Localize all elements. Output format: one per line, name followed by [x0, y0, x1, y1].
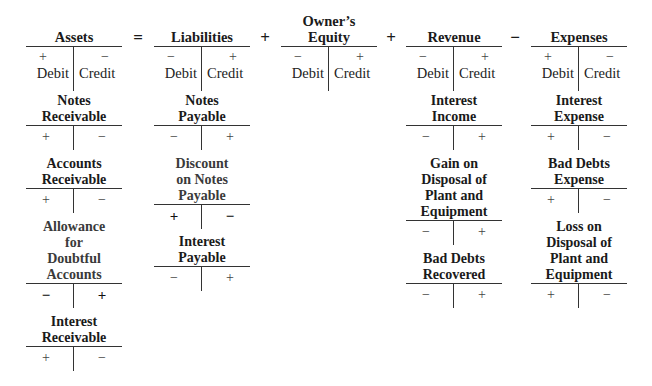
t-account-allowance-doubtful-accounts: Allowance for Doubtful Accounts − +: [26, 219, 122, 308]
credit-sign: +: [218, 49, 248, 65]
t-divider: [73, 347, 74, 371]
t-account-interest-expense: Interest Expense + −: [531, 93, 627, 150]
left-sign: −: [411, 129, 441, 145]
t-account-liabilities: − + Debit Credit: [154, 46, 250, 91]
right-sign: +: [467, 287, 497, 303]
plus-operator-2: +: [381, 28, 401, 48]
t-account-expenses: + − Debit Credit: [531, 46, 627, 91]
debit-sign: −: [408, 49, 438, 65]
account-title-line: Discount: [154, 156, 250, 172]
credit-sign: +: [470, 49, 500, 65]
debit-sign: +: [533, 49, 563, 65]
credit-label: Credit: [207, 65, 243, 82]
credit-sign: −: [90, 49, 120, 65]
debit-sign: +: [28, 49, 58, 65]
t-divider: [453, 221, 454, 245]
t-account-notes-payable: Notes Payable − +: [154, 93, 250, 150]
t-divider: [73, 189, 74, 213]
account-title-line: Income: [406, 109, 502, 125]
account-title-line: Payable: [154, 109, 250, 125]
left-sign: +: [536, 192, 566, 208]
debit-label: Debit: [292, 65, 324, 82]
t-account-notes-receivable: Notes Receivable + −: [26, 93, 122, 150]
t-account-owners-equity: − + Debit Credit: [281, 46, 377, 91]
credit-sign: +: [345, 49, 375, 65]
equals-operator: =: [128, 28, 148, 48]
t-account-bad-debts-expense: Bad Debts Expense + −: [531, 156, 627, 213]
t-divider: [578, 189, 579, 213]
right-sign: −: [592, 287, 622, 303]
left-sign: +: [31, 129, 61, 145]
account-title-line: Doubtful: [26, 251, 122, 267]
account-title-line: Expense: [531, 172, 627, 188]
account-title-line: Expense: [531, 109, 627, 125]
account-title-line: Interest: [154, 234, 250, 250]
t-divider: [578, 284, 579, 308]
minus-operator: −: [505, 28, 525, 48]
account-title-line: Disposal of: [531, 235, 627, 251]
left-sign: −: [159, 129, 189, 145]
t-divider: [328, 47, 329, 91]
debit-label: Debit: [37, 65, 69, 82]
left-sign: +: [536, 129, 566, 145]
account-title-line: Payable: [154, 250, 250, 266]
debit-sign: −: [283, 49, 313, 65]
account-title-line: Bad Debts: [406, 251, 502, 267]
credit-sign: −: [595, 49, 625, 65]
account-title-line: Notes: [154, 93, 250, 109]
header-expenses: Expenses: [531, 29, 627, 45]
account-title-line: Payable: [154, 188, 250, 204]
account-title-line: Interest: [26, 314, 122, 330]
account-title-line: for: [26, 235, 122, 251]
t-divider: [453, 126, 454, 150]
debit-label: Debit: [417, 65, 449, 82]
t-divider: [73, 284, 74, 308]
right-sign: −: [215, 208, 245, 225]
t-account-interest-payable: Interest Payable − +: [154, 234, 250, 291]
t-divider: [453, 284, 454, 308]
account-title-line: Plant and: [531, 251, 627, 267]
debit-sign: −: [156, 49, 186, 65]
account-title-line: Receivable: [26, 109, 122, 125]
debit-label: Debit: [542, 65, 574, 82]
account-title-line: Disposal of: [406, 172, 502, 188]
t-account-interest-receivable: Interest Receivable + −: [26, 314, 122, 371]
t-divider: [201, 47, 202, 91]
account-title-line: Equipment: [406, 204, 502, 220]
t-divider: [73, 126, 74, 150]
credit-label: Credit: [334, 65, 370, 82]
account-title-line: Accounts: [26, 267, 122, 283]
left-sign: −: [411, 287, 441, 303]
right-sign: +: [87, 287, 117, 304]
t-divider: [578, 47, 579, 91]
header-liabilities: Liabilities: [154, 29, 250, 45]
t-divider: [201, 267, 202, 291]
t-divider: [453, 47, 454, 91]
left-sign: −: [411, 224, 441, 240]
right-sign: +: [215, 129, 245, 145]
account-title-line: Notes: [26, 93, 122, 109]
left-sign: +: [31, 192, 61, 208]
t-account-loss-on-disposal: Loss on Disposal of Plant and Equipment …: [531, 219, 627, 308]
t-account-interest-income: Interest Income − +: [406, 93, 502, 150]
credit-label: Credit: [79, 65, 115, 82]
credit-label: Credit: [459, 65, 495, 82]
t-account-discount-on-notes-payable: Discount on Notes Payable + −: [154, 156, 250, 229]
t-divider: [578, 126, 579, 150]
debit-label: Debit: [165, 65, 197, 82]
account-title-line: Plant and: [406, 188, 502, 204]
right-sign: −: [87, 350, 117, 366]
right-sign: +: [467, 129, 497, 145]
header-owners-equity-line1: Owner’s: [281, 13, 377, 29]
t-divider: [201, 126, 202, 150]
left-sign: −: [159, 270, 189, 286]
account-title-line: Interest: [531, 93, 627, 109]
t-account-revenue: − + Debit Credit: [406, 46, 502, 91]
right-sign: −: [87, 192, 117, 208]
account-title-line: Receivable: [26, 172, 122, 188]
right-sign: +: [215, 270, 245, 286]
account-title-line: Receivable: [26, 330, 122, 346]
right-sign: −: [592, 129, 622, 145]
account-title-line: Accounts: [26, 156, 122, 172]
right-sign: −: [87, 129, 117, 145]
